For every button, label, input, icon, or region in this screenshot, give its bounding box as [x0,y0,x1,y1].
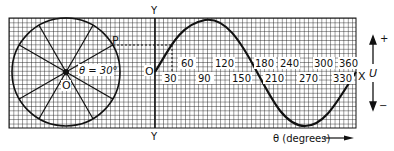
u-label: U [369,67,377,80]
tick-240: 240 [280,58,299,69]
u-minus-label: − [379,100,387,111]
tick-120: 120 [215,58,234,69]
tick-210: 210 [265,73,284,84]
tick-270: 270 [299,73,318,84]
circle-origin-label: O [62,79,71,92]
wave-origin-label: O [145,65,154,78]
angle-label: θ = 30° [79,65,118,76]
x-axis-caption: θ (degrees) [273,133,330,144]
sine-wave-diagram: 60 120 180 240 300 360 30 90 150 210 270… [0,0,394,151]
u-plus-label: + [380,33,388,44]
tick-30: 30 [164,73,177,84]
tick-330: 330 [333,73,352,84]
tick-150: 150 [232,73,251,84]
x-axis-label: X [358,70,366,83]
tick-180: 180 [255,58,274,69]
tick-90: 90 [198,73,211,84]
y-axis-top-label: Y [150,5,158,16]
tick-360: 360 [339,58,358,69]
tick-60: 60 [181,58,194,69]
tick-300: 300 [314,58,333,69]
point-p-label: P [112,34,119,47]
y-axis-bottom-label: Y [150,131,158,142]
